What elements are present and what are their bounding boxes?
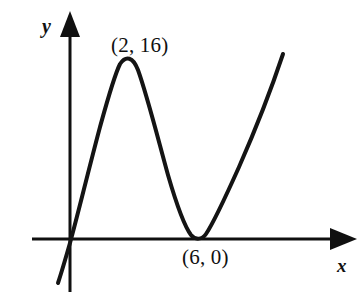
graph-figure: y x (2, 16) (6, 0) bbox=[0, 0, 363, 306]
cubic-curve bbox=[58, 54, 283, 283]
y-axis-label: y bbox=[42, 16, 51, 36]
local-minimum-label: (6, 0) bbox=[182, 247, 229, 268]
y-axis-arrowhead-icon bbox=[60, 11, 80, 37]
local-maximum-label: (2, 16) bbox=[111, 35, 168, 56]
x-axis-arrowhead-icon bbox=[330, 228, 357, 250]
x-axis-label: x bbox=[337, 256, 347, 275]
